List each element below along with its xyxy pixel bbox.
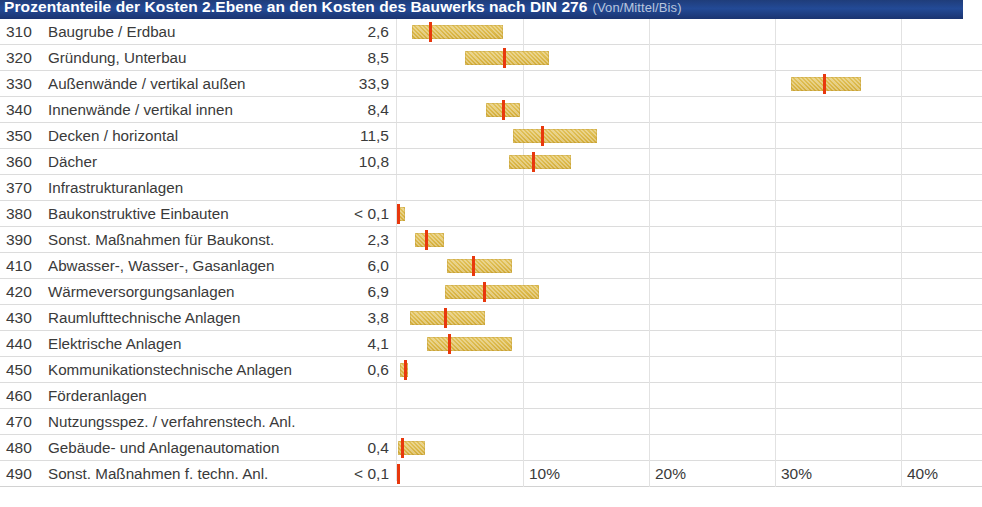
- mean-marker: [503, 48, 506, 68]
- row-code: 330: [6, 71, 42, 97]
- table-row[interactable]: 340Innenwände / vertikal innen8,4: [0, 97, 982, 123]
- row-value: 2,3: [240, 227, 392, 253]
- table-row[interactable]: 310Baugrube / Erdbau2,6: [0, 19, 982, 45]
- row-code: 390: [6, 227, 42, 253]
- row-value: [240, 409, 392, 435]
- row-label: Decken / horizontal: [48, 123, 178, 149]
- row-value: < 0,1: [240, 201, 392, 227]
- table-row[interactable]: 380Baukonstruktive Einbauten< 0,1: [0, 201, 982, 227]
- mean-marker: [472, 256, 475, 276]
- range-bar: [415, 233, 444, 247]
- table-row[interactable]: 450Kommunikationstechnische Anlagen0,6: [0, 357, 982, 383]
- gridline-30: [775, 175, 776, 201]
- row-plot-area: [397, 19, 982, 45]
- gridline-20: [649, 97, 650, 123]
- table-row[interactable]: 490Sonst. Maßnahmen f. techn. Anl.< 0,11…: [0, 461, 982, 487]
- row-label: Baukonstruktive Einbauten: [48, 201, 229, 227]
- row-plot-area: [397, 357, 982, 383]
- gridline-10: [523, 357, 524, 383]
- row-label: Raumlufttechnische Anlagen: [48, 305, 241, 331]
- gridline-40: [901, 175, 902, 201]
- table-row[interactable]: 460Förderanlagen: [0, 383, 982, 409]
- row-label: Gründung, Unterbau: [48, 45, 186, 71]
- gridline-10: [523, 409, 524, 435]
- row-value: 3,8: [240, 305, 392, 331]
- table-row[interactable]: 390Sonst. Maßnahmen für Baukonst.2,3: [0, 227, 982, 253]
- gridline-20: [649, 357, 650, 383]
- table-row[interactable]: 320Gründung, Unterbau8,5: [0, 45, 982, 71]
- gridline-40: [901, 331, 902, 357]
- row-value: 8,5: [240, 45, 392, 71]
- mean-marker: [397, 464, 400, 484]
- mean-marker: [404, 360, 407, 380]
- gridline-20: [649, 461, 650, 487]
- gridline-30: [775, 253, 776, 279]
- gridline-20: [649, 149, 650, 175]
- mean-marker: [541, 126, 544, 146]
- gridline-10: [523, 383, 524, 409]
- gridline-20: [649, 45, 650, 71]
- row-value: 10,8: [240, 149, 392, 175]
- gridline-20: [649, 175, 650, 201]
- table-row[interactable]: 430Raumlufttechnische Anlagen3,8: [0, 305, 982, 331]
- chart-subtitle: (Von/Mittel/Bis): [593, 0, 682, 15]
- row-label: Förderanlagen: [48, 383, 147, 409]
- gridline-30: [775, 357, 776, 383]
- table-row[interactable]: 410Abwasser-, Wasser-, Gasanlagen6,0: [0, 253, 982, 279]
- table-row[interactable]: 330Außenwände / vertikal außen33,9: [0, 71, 982, 97]
- mean-marker: [448, 334, 451, 354]
- row-code: 440: [6, 331, 42, 357]
- range-bar: [513, 129, 597, 143]
- gridline-10: [523, 175, 524, 201]
- row-label: Wärmeversorgungsanlagen: [48, 279, 235, 305]
- row-plot-area: [397, 279, 982, 305]
- gridline-10: [523, 331, 524, 357]
- table-row[interactable]: 360Dächer10,8: [0, 149, 982, 175]
- row-value: 4,1: [240, 331, 392, 357]
- gridline-10: [523, 461, 524, 487]
- gridline-10: [523, 201, 524, 227]
- table-row[interactable]: 350Decken / horizontal11,5: [0, 123, 982, 149]
- row-plot-area: [397, 71, 982, 97]
- gridline-10: [523, 305, 524, 331]
- gridline-20: [649, 201, 650, 227]
- row-plot-area: [397, 305, 982, 331]
- gridline-20: [649, 435, 650, 461]
- mean-marker: [444, 308, 447, 328]
- table-row[interactable]: 370Infrastrukturanlagen: [0, 175, 982, 201]
- row-code: 450: [6, 357, 42, 383]
- gridline-10: [523, 435, 524, 461]
- row-value: 33,9: [240, 71, 392, 97]
- gridline-20: [649, 305, 650, 331]
- table-row[interactable]: 480Gebäude- und Anlagenautomation0,4: [0, 435, 982, 461]
- row-plot-area: [397, 45, 982, 71]
- row-code: 470: [6, 409, 42, 435]
- gridline-20: [649, 279, 650, 305]
- table-row[interactable]: 440Elektrische Anlagen4,1: [0, 331, 982, 357]
- row-code: 490: [6, 461, 42, 487]
- gridline-30: [775, 201, 776, 227]
- gridline-10: [523, 227, 524, 253]
- mean-marker: [483, 282, 486, 302]
- mean-marker: [397, 204, 400, 224]
- row-code: 380: [6, 201, 42, 227]
- gridline-20: [649, 227, 650, 253]
- axis-tick-label: 20%: [655, 461, 686, 487]
- row-plot-area: [397, 253, 982, 279]
- gridline-10: [523, 19, 524, 45]
- gridline-10: [523, 97, 524, 123]
- gridline-20: [649, 409, 650, 435]
- gridline-20: [649, 19, 650, 45]
- gridline-30: [775, 149, 776, 175]
- gridline-20: [649, 383, 650, 409]
- table-row[interactable]: 470Nutzungsspez. / verfahrenstech. Anl.: [0, 409, 982, 435]
- row-code: 350: [6, 123, 42, 149]
- row-code: 460: [6, 383, 42, 409]
- table-row[interactable]: 420Wärmeversorgungsanlagen6,9: [0, 279, 982, 305]
- gridline-40: [901, 19, 902, 45]
- axis-tick-label: 40%: [907, 461, 938, 487]
- gridline-30: [775, 435, 776, 461]
- gridline-30: [775, 123, 776, 149]
- gridline-40: [901, 409, 902, 435]
- chart-header-bar: Prozentanteile der Kosten 2.Ebene an den…: [0, 0, 963, 19]
